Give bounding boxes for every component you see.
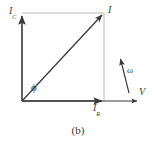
phasor-diagram-figure: IC I IR ϕ V ω (b) — [0, 0, 156, 146]
voltage-axis-label: V — [139, 87, 145, 97]
capacitive-current-label: IC — [9, 6, 16, 18]
figure-caption: (b) — [0, 124, 156, 136]
total-current-symbol: I — [108, 4, 111, 15]
phase-angle-label: ϕ — [31, 82, 37, 93]
total-current-label: I — [108, 5, 111, 15]
resistive-current-label: IR — [93, 103, 100, 115]
capacitive-current-subscript: C — [12, 14, 16, 20]
resistive-current-subscript: R — [96, 111, 100, 117]
angular-velocity-label: ω — [127, 66, 133, 75]
